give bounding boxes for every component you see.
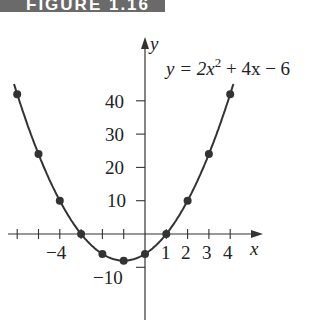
data-point — [35, 150, 43, 158]
x-axis-arrow-icon — [251, 230, 263, 238]
y-axis-arrow-icon — [141, 37, 149, 49]
data-point — [184, 197, 192, 205]
x-axis-label: x — [249, 238, 259, 259]
data-point — [226, 90, 234, 98]
data-point — [98, 250, 106, 258]
data-point — [141, 250, 149, 258]
x-tick-label-2: 2 — [181, 242, 191, 263]
x-tick-label-1: 1 — [161, 242, 171, 263]
y-tick-label-neg10: −10 — [93, 267, 123, 288]
data-point — [120, 257, 128, 265]
x-tick-label-4: 4 — [223, 242, 233, 263]
y-tick-label-10: 10 — [107, 190, 126, 211]
data-point — [56, 197, 64, 205]
data-point — [77, 230, 85, 238]
data-point — [205, 150, 213, 158]
x-tick-label-3: 3 — [202, 242, 212, 263]
data-point — [162, 230, 170, 238]
y-tick-label-40: 40 — [105, 91, 124, 112]
y-axis-label: y — [148, 33, 159, 54]
y-tick-label-20: 20 — [105, 157, 124, 178]
axes — [8, 44, 256, 320]
parabola-chart: y x y = 2x2 + 4x − 6 40 30 20 10 −10 −4 … — [0, 0, 325, 320]
equation-label: y = 2x2 + 4x − 6 — [164, 55, 290, 79]
y-tick-label-30: 30 — [105, 124, 124, 145]
data-point — [13, 90, 21, 98]
x-tick-label-neg4: −4 — [46, 242, 67, 263]
